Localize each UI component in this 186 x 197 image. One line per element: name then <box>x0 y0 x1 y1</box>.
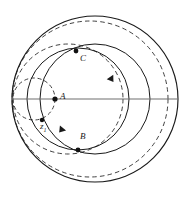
point-label-A: A <box>60 92 66 101</box>
arrow-medium-lower-left <box>56 125 66 135</box>
figure-root: A B C z1 <box>0 0 186 197</box>
point-label-z1-subscript: 1 <box>44 127 47 133</box>
point-B-marker <box>76 148 81 153</box>
point-label-B: B <box>80 132 86 141</box>
point-C-marker <box>74 49 79 54</box>
circle-diagram-svg <box>0 0 186 197</box>
point-label-z1: z1 <box>40 122 47 133</box>
arrow-inner-upper-right <box>107 75 117 85</box>
point-label-C: C <box>80 54 86 63</box>
point-A-marker <box>52 96 57 101</box>
